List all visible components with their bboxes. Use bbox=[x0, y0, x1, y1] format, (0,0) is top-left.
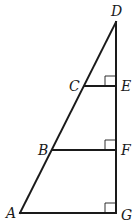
label-e: E bbox=[120, 78, 131, 94]
label-c: C bbox=[69, 78, 80, 94]
segment-ad bbox=[20, 22, 116, 213]
geometry-diagram: D C E B F A G bbox=[0, 0, 137, 224]
right-angle-marker-f bbox=[105, 140, 116, 150]
right-angle-marker-e bbox=[105, 76, 116, 86]
label-f: F bbox=[120, 142, 132, 158]
label-d: D bbox=[110, 3, 122, 19]
label-g: G bbox=[121, 207, 132, 223]
right-angle-marker-g bbox=[105, 203, 116, 213]
label-a: A bbox=[4, 205, 16, 221]
label-b: B bbox=[37, 142, 48, 158]
